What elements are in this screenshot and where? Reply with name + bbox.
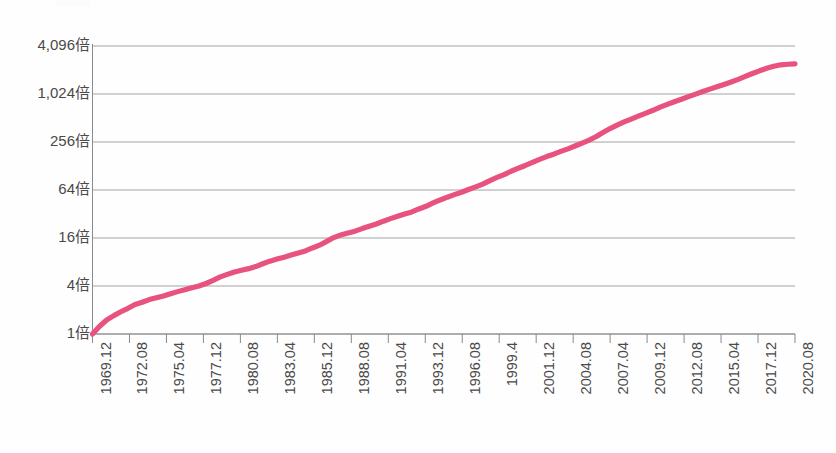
x-axis-tick-label: 1985.12 [320, 342, 335, 394]
x-axis-tick-label: 1983.04 [283, 342, 298, 394]
x-axis-tick-label: 2012.08 [690, 342, 705, 394]
x-axis-tick-label: 1993.12 [431, 342, 446, 394]
x-axis-tick-label: 2020.08 [801, 342, 816, 394]
x-axis-tick-label: 2015.04 [727, 342, 742, 394]
x-axis-tick-label: 2009.12 [653, 342, 668, 394]
x-axis-tick-label: 1977.12 [209, 342, 224, 394]
line-chart: 4,096倍1,024倍256倍64倍16倍4倍1倍 1969.121972.0… [0, 0, 836, 453]
x-axis-tick-label: 2001.12 [542, 342, 557, 394]
x-axis-tick-label: 1980.08 [246, 342, 261, 394]
x-axis-tick-label: 1969.12 [99, 342, 114, 394]
x-axis-tick-label: 1972.08 [135, 342, 150, 394]
x-axis-tick-label: 2004.08 [579, 342, 594, 394]
x-axis-tick-label: 2017.12 [764, 342, 779, 394]
x-axis-labels: 1969.121972.081975.041977.121980.081983.… [0, 0, 836, 453]
x-axis-tick-label: 1999.4 [505, 342, 520, 386]
chart-screenshot: 4,096倍1,024倍256倍64倍16倍4倍1倍 1969.121972.0… [0, 0, 836, 453]
x-axis-tick-label: 1988.08 [357, 342, 372, 394]
x-axis-tick-label: 1996.08 [468, 342, 483, 394]
x-axis-tick-label: 2007.04 [616, 342, 631, 394]
x-axis-tick-label: 1991.04 [394, 342, 409, 394]
x-axis-tick-label: 1975.04 [172, 342, 187, 394]
